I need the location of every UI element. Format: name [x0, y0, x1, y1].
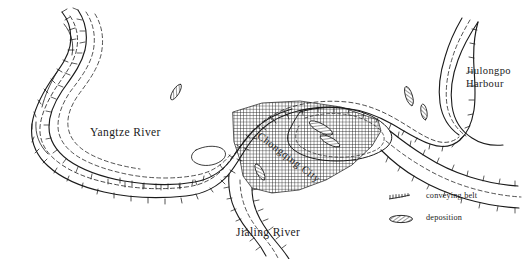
legend-item-deposition: deposition [388, 208, 526, 226]
legend-label-conveying-belt: conveying belt [426, 191, 477, 200]
conveying-belt-icon [388, 189, 418, 201]
label-jialing-river: Jialing River [236, 226, 300, 238]
confluence-bar [192, 146, 226, 165]
city-hatch-polygon [233, 101, 381, 193]
label-yangtze-river: Yangtze River [90, 126, 161, 138]
deposition-icon [388, 211, 418, 223]
map-legend: conveying belt deposition [388, 186, 526, 230]
legend-item-conveying-belt: conveying belt [388, 186, 526, 204]
label-jiulongpo-harbour: Jiulongpo Harbour [466, 64, 511, 90]
label-jiulongpo-line1: Jiulongpo [466, 64, 511, 77]
chongqing-city-area [233, 101, 381, 193]
label-jiulongpo-line2: Harbour [466, 77, 511, 90]
northwest-arm-detail [36, 24, 73, 154]
legend-label-deposition: deposition [426, 213, 462, 222]
yangtze-channel-dashed-south [58, 12, 230, 178]
